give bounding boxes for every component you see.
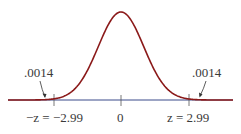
normal-distribution-chart: .0014 .0014 −z = −2.99 0 z = 2.99 xyxy=(0,0,241,134)
right-arrowhead xyxy=(199,93,203,98)
right-tick-label: z = 2.99 xyxy=(167,110,209,125)
left-area-label: .0014 xyxy=(24,65,54,80)
center-tick-label: 0 xyxy=(117,110,124,125)
left-tick-label: −z = −2.99 xyxy=(26,110,83,125)
right-area-label: .0014 xyxy=(192,65,222,80)
left-arrowhead xyxy=(43,94,47,99)
